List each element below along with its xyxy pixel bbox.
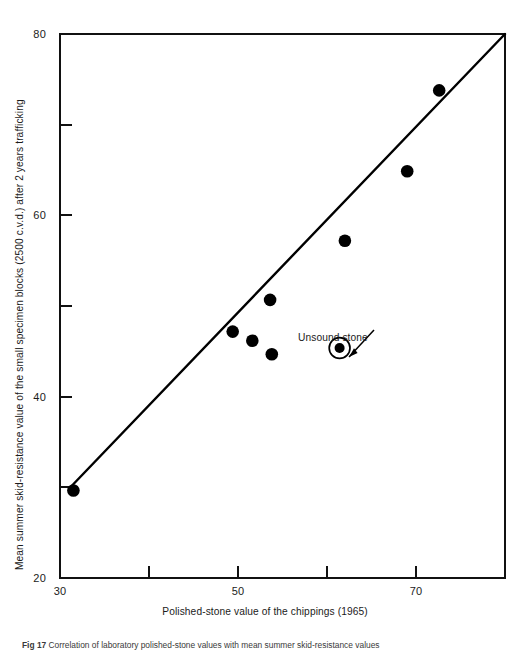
x-tick-label-50: 50 — [222, 586, 254, 597]
figure-caption-text: Correlation of laboratory polished-stone… — [49, 640, 380, 650]
x-tick-label-30: 30 — [44, 586, 76, 597]
annotation-unsound-stone: Unsound stone — [298, 332, 368, 343]
y-axis-ticks — [60, 34, 72, 578]
data-point[interactable] — [339, 234, 352, 247]
data-point-highlighted[interactable] — [335, 343, 345, 353]
data-point[interactable] — [246, 334, 259, 347]
plot-frame — [60, 34, 505, 578]
regression-line — [72, 34, 505, 486]
data-point[interactable] — [266, 348, 279, 361]
y-axis-label-wrapper: Mean summer skid-resistance value of the… — [0, 0, 22, 600]
x-tick-label-70: 70 — [400, 586, 432, 597]
figure-caption-number: Fig 17 — [22, 640, 46, 650]
data-point[interactable] — [67, 484, 80, 497]
data-point[interactable] — [433, 84, 446, 97]
data-points — [67, 84, 445, 497]
figure-caption: Fig 17 Correlation of laboratory polishe… — [22, 640, 522, 650]
y-axis-label: Mean summer skid-resistance value of the… — [14, 99, 25, 570]
x-axis-label: Polished-stone value of the chippings (1… — [0, 606, 530, 617]
data-point[interactable] — [226, 325, 239, 338]
x-axis-ticks — [60, 566, 505, 578]
data-point[interactable] — [401, 165, 414, 178]
data-point[interactable] — [264, 294, 277, 307]
